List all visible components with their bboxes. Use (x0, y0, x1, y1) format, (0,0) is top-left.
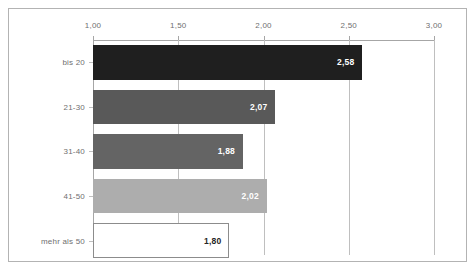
x-axis-tick-label: 3,00 (426, 21, 442, 30)
x-axis-tick-label: 2,00 (255, 21, 271, 30)
category-label-bis-20: bis 20 (62, 58, 85, 67)
bar-group: 41-502,02 (93, 174, 434, 219)
bar-bis-20[interactable]: 2,58 (93, 45, 362, 80)
category-label-21-30: 21-30 (64, 102, 85, 111)
bar-value-label: 2,07 (250, 102, 267, 112)
gridline-3-00 (434, 40, 435, 255)
bar-21-30[interactable]: 2,07 (93, 90, 275, 125)
category-label-41-50: 41-50 (64, 192, 85, 201)
bar-value-label: 1,80 (204, 236, 221, 246)
x-axis-tick (434, 36, 435, 40)
x-axis-tick-label: 1,50 (170, 21, 186, 30)
category-label-mehr-als-50: mehr als 50 (41, 236, 85, 245)
bar-31-40[interactable]: 1,88 (93, 134, 243, 169)
bar-group: bis 202,58 (93, 40, 434, 85)
bar-value-label: 1,88 (218, 146, 235, 156)
bar-group: 31-401,88 (93, 129, 434, 174)
bar-group: mehr als 501,80 (93, 218, 434, 263)
bar-value-label: 2,58 (337, 57, 354, 67)
chart-frame: 1,001,502,002,503,00 bis 202,5821-302,07… (8, 8, 467, 262)
bar-group: 21-302,07 (93, 85, 434, 130)
bar-value-label: 2,02 (242, 191, 259, 201)
x-axis-tick-label: 2,50 (341, 21, 357, 30)
bar-mehr-als-50[interactable]: 1,80 (93, 223, 229, 258)
plot-area: 1,001,502,002,503,00 bis 202,5821-302,07… (93, 40, 434, 263)
bar-41-50[interactable]: 2,02 (93, 179, 267, 214)
category-label-31-40: 31-40 (64, 147, 85, 156)
x-axis-tick-label: 1,00 (85, 21, 101, 30)
